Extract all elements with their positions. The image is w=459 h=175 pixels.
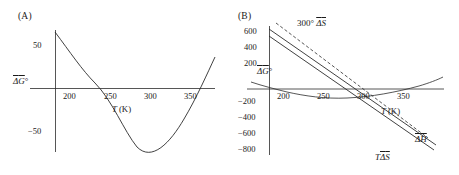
panel-b-ytick-200: 200 [244, 58, 257, 68]
panel-b-ytick-minus-600: −600 [238, 128, 256, 138]
panel-a-plot [0, 0, 229, 175]
panel-a-ytick-50: 50 [33, 40, 42, 50]
panel-b-xtick-300: 300 [357, 91, 370, 101]
panel-b-label-t-delta-s: TΔS [375, 152, 390, 162]
panel-b-ytick-minus-200: −200 [238, 96, 256, 106]
panel-b-ytick-minus-800: −800 [238, 144, 256, 154]
panel-b: (B) 600 400 200 −200 −400 −600 −800 200 … [229, 0, 459, 175]
panel-a-y-axis-label: ΔG° [13, 76, 28, 86]
panel-b-ytick-400: 400 [244, 42, 257, 52]
panel-b-x-axis-label: T (K) [381, 106, 400, 116]
figure-container: (A) ΔG° 50 −50 200 250 300 350 T (K) (B) [0, 0, 459, 175]
panel-a: (A) ΔG° 50 −50 200 250 300 350 T (K) [0, 0, 229, 175]
panel-a-xtick-300: 300 [144, 91, 157, 101]
panel-b-xtick-350: 350 [397, 91, 410, 101]
panel-a-x-axis-label: T (K) [112, 104, 131, 114]
panel-b-line-300-delta-s [276, 23, 428, 138]
panel-b-ytick-minus-400: −400 [238, 112, 256, 122]
panel-a-xtick-200: 200 [63, 91, 76, 101]
panel-b-ytick-600: 600 [244, 26, 257, 36]
panel-b-label-300-delta-s: 300° ΔS [297, 18, 326, 28]
panel-a-ytick-minus-50: −50 [28, 126, 41, 136]
panel-b-label-delta-g: ΔG° [257, 66, 272, 76]
panel-b-plot [229, 0, 459, 175]
panel-b-line-delta-h [269, 29, 436, 145]
panel-a-xtick-250: 250 [104, 91, 117, 101]
panel-a-xtick-350: 350 [184, 91, 197, 101]
panel-b-xtick-250: 250 [317, 91, 330, 101]
panel-b-xtick-200: 200 [277, 91, 290, 101]
panel-b-label-delta-h: ΔH [415, 134, 427, 144]
